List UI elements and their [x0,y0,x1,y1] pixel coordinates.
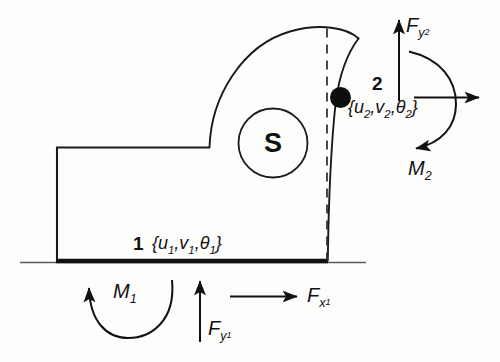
node-1-dof-theta: ,θ [195,233,210,253]
force-x-1-label: Fx1 [307,285,331,305]
moment-1-symbol: M [113,280,130,302]
body-right-flank [328,39,359,261]
centroid-label: S [264,130,282,157]
moment-1-subscript: 1 [130,292,137,306]
force-y-1-label: Fy1 [208,318,232,338]
force-y-2-sub-y: y [418,26,424,40]
node-2-dof-label: {u2,v2,θ2} [348,98,418,116]
force-y-2-symbol: F [406,14,418,36]
force-y-2-sub-2: 2 [425,27,430,37]
force-x-1-sub-1: 1 [326,297,331,307]
force-y-1-symbol: F [208,317,220,339]
moment-1-label: M1 [113,281,137,301]
moment-2-label: M2 [408,158,432,178]
body-outer-arc [210,27,359,147]
node-1-dof-label: {u1,v1,θ1} [152,234,222,252]
node-1-number: 1 [133,234,144,253]
force-y-1-sub-y: y [220,329,226,343]
figure-canvas: S 1 {u1,v1,θ1} 2 {u2,v2,θ2} M1 Fy1 Fx1 F… [0,0,500,362]
node-2-number: 2 [372,74,383,93]
force-y-1-sub-1: 1 [227,330,232,340]
node-2-dof-open: {u [348,97,364,117]
moment-2-subscript: 2 [425,169,432,183]
node-1-dof-close: } [216,233,222,253]
node-1-dof-open: {u [152,233,168,253]
moment-2-symbol: M [408,157,425,179]
node-2-dof-mid: ,v [370,97,384,117]
force-x-1-sub-x: x [319,296,325,310]
node-2-dof-close: } [412,97,418,117]
node-1-dof-mid: ,v [174,233,188,253]
force-y-2-label: Fy2 [406,15,430,35]
node-2-dof-theta: ,θ [391,97,406,117]
force-x-1-symbol: F [307,284,319,306]
